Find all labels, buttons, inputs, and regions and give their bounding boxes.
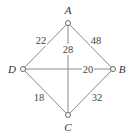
vertex-a-label: A — [64, 4, 72, 16]
vertex-c-label: C — [64, 121, 72, 133]
vertex-d-node — [21, 67, 26, 72]
edge-weight-d-b: 20 — [83, 64, 94, 75]
edge-d-c — [23, 69, 68, 115]
vertex-a-node — [66, 21, 71, 26]
vertex-b-label: B — [119, 63, 126, 75]
vertex-d-label: D — [7, 63, 16, 75]
vertex-b-node — [111, 67, 116, 72]
edge-weight-b-c: 32 — [92, 92, 103, 103]
edge-weight-a-b: 48 — [91, 35, 102, 46]
edge-weight-d-c: 18 — [34, 92, 45, 103]
weighted-graph-diagram: 224828201832 ABCD — [0, 0, 130, 136]
vertex-c-node — [66, 113, 71, 118]
edge-b-c — [68, 69, 113, 115]
edge-weight-a-c: 28 — [63, 44, 74, 55]
edge-weight-a-d: 22 — [36, 35, 47, 46]
